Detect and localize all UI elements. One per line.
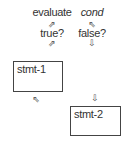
stmt-1-box: stmt-1 <box>13 61 63 92</box>
arrow-up-left-icon: ⇖ <box>32 95 40 104</box>
stmt-2-label: stmt-2 <box>74 108 103 120</box>
stmt-2-box: stmt-2 <box>70 106 121 136</box>
arrow-down-icon: ⇩ <box>91 94 99 103</box>
evaluate-label: evaluate <box>32 6 71 18</box>
arrow-up-right-icon: ⇗ <box>48 39 56 48</box>
cond-label: cond <box>81 6 104 18</box>
arrow-down-icon: ⇩ <box>88 39 96 48</box>
stmt-1-label: stmt-1 <box>17 63 46 75</box>
